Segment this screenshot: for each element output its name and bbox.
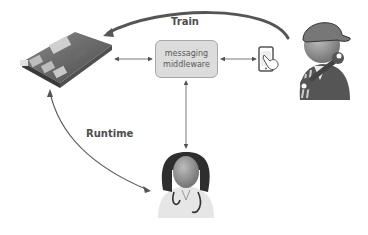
runtime-label: Runtime bbox=[86, 128, 133, 139]
middleware-label-line1: messaging bbox=[165, 48, 208, 59]
middleware-label-line2: middleware bbox=[163, 59, 210, 70]
messaging-middleware-box: messaging middleware bbox=[155, 40, 218, 78]
mobile-phone-icon bbox=[259, 47, 278, 71]
runtime-arrow bbox=[47, 89, 151, 193]
diagram-canvas bbox=[0, 0, 368, 235]
train-label: Train bbox=[171, 16, 199, 27]
embedded-board-icon bbox=[20, 32, 112, 88]
technician-icon bbox=[300, 23, 351, 100]
doctor-icon bbox=[158, 152, 214, 218]
